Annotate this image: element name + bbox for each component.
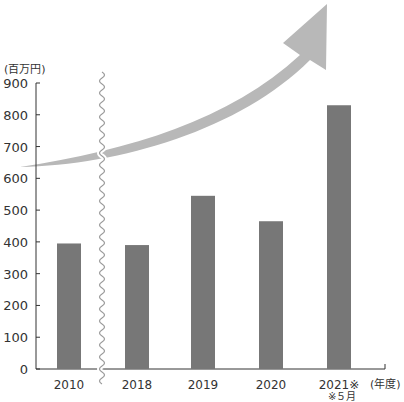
- y-tick-label: 800: [3, 108, 28, 123]
- bar-2019: [191, 196, 215, 369]
- y-tick-label: 600: [3, 171, 28, 186]
- y-tick-label: 300: [3, 267, 28, 282]
- bar-2020: [259, 221, 283, 369]
- y-tick-label: 400: [3, 235, 28, 250]
- footnote-label: ※５月: [328, 392, 356, 402]
- x-tick-label: 2018: [122, 378, 153, 392]
- y-tick-label: 200: [3, 298, 28, 313]
- x-tick-label: 2021※: [319, 378, 360, 392]
- x-tick-label: 2010: [54, 378, 85, 392]
- y-tick-label: 700: [3, 140, 28, 155]
- y-tick-label: 0: [20, 362, 28, 377]
- y-tick-label: 500: [3, 203, 28, 218]
- bar-2018: [125, 245, 149, 369]
- growth-arrow: [20, 4, 327, 167]
- y-tick-label: 900: [3, 76, 28, 91]
- y-tick-label: 100: [3, 330, 28, 345]
- x-axis-unit-label: (年度): [370, 375, 401, 391]
- x-tick-label: 2020: [256, 378, 287, 392]
- y-axis-unit-label: (百万円): [4, 60, 46, 76]
- bar-2021※: [327, 105, 351, 369]
- x-tick-label: 2019: [188, 378, 219, 392]
- bar-2010: [57, 243, 81, 369]
